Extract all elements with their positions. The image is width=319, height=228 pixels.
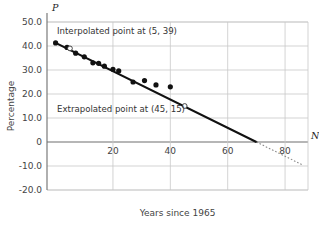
y-tick-label: 20.0 [22, 89, 42, 99]
data-point [73, 51, 78, 56]
y-tick-label: 50.0 [22, 17, 42, 27]
scatter-chart: 50.040.030.020.010.00-10.0-20.020406080P… [0, 0, 319, 228]
data-point [82, 54, 87, 59]
extrapolated-label: Extrapolated point at (45, 15) [57, 104, 185, 114]
x-tick-label: 20 [107, 146, 119, 156]
data-point [110, 67, 115, 72]
data-point [96, 61, 101, 66]
x-tick-label: 60 [222, 146, 234, 156]
data-point [142, 78, 147, 83]
estimated-point-interpolated [68, 46, 73, 51]
chart-container: 50.040.030.020.010.00-10.0-20.020406080P… [0, 0, 319, 228]
data-point [130, 79, 135, 84]
data-point [53, 40, 58, 45]
y-tick-label: -10.0 [19, 161, 43, 171]
data-point [90, 60, 95, 65]
y-tick-label: 30.0 [22, 65, 42, 75]
y-axis-letter: P [51, 2, 59, 13]
x-axis-title: Years since 1965 [139, 208, 216, 218]
x-tick-label: 80 [279, 146, 291, 156]
data-point [102, 64, 107, 69]
y-tick-label: 0 [36, 137, 42, 147]
y-tick-label: -20.0 [19, 185, 43, 195]
data-point [116, 68, 121, 73]
data-point [168, 84, 173, 89]
y-tick-label: 40.0 [22, 41, 42, 51]
x-tick-label: 40 [165, 146, 177, 156]
y-axis-title: Percentage [6, 80, 16, 131]
y-tick-label: 10.0 [22, 113, 42, 123]
interpolated-label: Interpolated point at (5, 39) [57, 26, 177, 36]
x-axis-letter: N [310, 130, 319, 141]
data-point [153, 82, 158, 87]
